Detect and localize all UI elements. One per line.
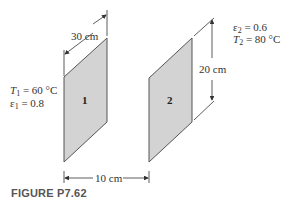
plate-1-number: 1 xyxy=(82,94,88,106)
emissivity-subscript: 1 xyxy=(15,102,19,111)
emissivity-value: = 0.8 xyxy=(21,97,44,109)
temperature-value: = 80 °C xyxy=(246,33,280,45)
figure-canvas: 30 cm 20 cm 10 cm 1 2 T1 = 60 °C ε1 = 0.… xyxy=(0,0,290,205)
plate-2-number: 2 xyxy=(167,94,173,106)
temperature-subscript: 2 xyxy=(239,38,243,47)
plate-2-temperature: T2 = 80 °C xyxy=(233,33,280,49)
temperature-value: = 60 °C xyxy=(23,84,57,96)
depth-dimension-label: 30 cm xyxy=(71,30,98,42)
spacing-dimension-label: 10 cm xyxy=(95,172,122,184)
plate-1-emissivity: ε1 = 0.8 xyxy=(10,97,44,113)
figure-caption: FIGURE P7.62 xyxy=(11,187,87,199)
emissivity-value: = 0.6 xyxy=(244,21,267,33)
height-dimension-label: 20 cm xyxy=(199,63,226,75)
